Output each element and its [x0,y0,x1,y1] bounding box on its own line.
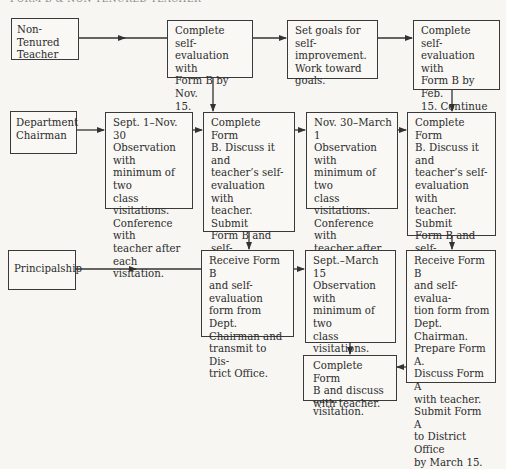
step-chairman-observation-fall: Sept. 1–Nov. 30 Observation with minimum… [105,112,193,209]
step-principal-transmit: Receive Form B and self-evaluation form … [201,250,294,337]
role-label: Department Chairman [16,117,72,142]
step-chairman-form-b-nov: Complete Form B. Discuss it and teacher’… [203,112,295,232]
step-text: Receive Form B and self-evalua- tion for… [414,255,490,469]
step-text: Complete self- evaluation with Form B by… [175,25,247,113]
role-principalship: Principalship [8,250,76,290]
step-principal-form-a: Receive Form B and self-evalua- tion for… [406,250,496,383]
step-teacher-self-eval-feb: Complete self- evaluation with Form B by… [413,20,500,90]
step-text: Complete self- evaluation with Form B by… [421,25,494,126]
step-teacher-self-eval-nov: Complete self- evaluation with Form B by… [167,20,253,78]
role-label: Non-Tenured Teacher [17,24,74,62]
step-text: Set goals for self- improvement. Work to… [295,25,372,88]
step-text: Receive Form B and self-evaluation form … [209,255,288,381]
step-chairman-observation-winter: Nov. 30–March 1 Observation with minimum… [306,112,398,209]
role-label: Principalship [14,263,71,276]
step-chairman-form-b-march: Complete Form B. Discuss it and teacher’… [407,112,496,236]
step-text: Complete Form B and discuss with teacher… [313,360,391,410]
step-principal-observation: Sept.–March 15 Observation with minimum … [305,250,396,343]
diagram-header: FORM B & NON-TENURED TEACHER [10,0,210,4]
step-text: Sept. 1–Nov. 30 Observation with minimum… [113,117,187,281]
role-non-tenured-teacher: Non-Tenured Teacher [11,18,79,60]
step-teacher-set-goals: Set goals for self- improvement. Work to… [287,20,378,79]
role-department-chairman: Department Chairman [10,111,77,154]
step-principal-complete-form-b: Complete Form B and discuss with teacher… [303,355,397,401]
